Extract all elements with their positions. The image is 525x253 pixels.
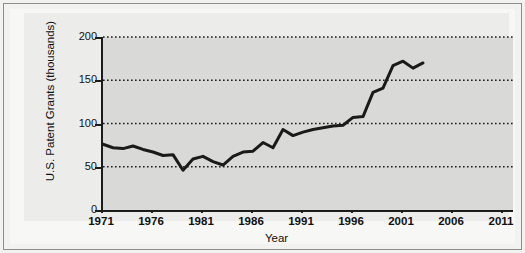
x-tick-label-1981: 1981 — [177, 215, 225, 227]
figure-inner-board: U.S. Patent Grants (thousands) 050100150… — [10, 9, 515, 244]
y-axis-tick-labels: 050100150200 — [58, 13, 97, 248]
chart-panel: U.S. Patent Grants (thousands) 050100150… — [24, 13, 509, 221]
x-tick-label-1986: 1986 — [227, 215, 275, 227]
x-tick-label-2006: 2006 — [427, 215, 475, 227]
patent-grants-line — [103, 61, 423, 170]
x-tick-label-2011: 2011 — [477, 215, 525, 227]
y-axis-title: U.S. Patent Grants (thousands) — [44, 11, 56, 191]
plot-svg — [103, 37, 513, 210]
x-tick-label-2001: 2001 — [377, 215, 425, 227]
x-tick-label-1996: 1996 — [327, 215, 375, 227]
gridlines — [103, 37, 513, 167]
x-tick-label-1971: 1971 — [77, 215, 125, 227]
x-tick-label-1991: 1991 — [277, 215, 325, 227]
figure-frame: U.S. Patent Grants (thousands) 050100150… — [0, 0, 525, 253]
plot-area — [101, 37, 513, 212]
x-axis-title: Year — [24, 232, 525, 244]
x-tick-label-1976: 1976 — [127, 215, 175, 227]
